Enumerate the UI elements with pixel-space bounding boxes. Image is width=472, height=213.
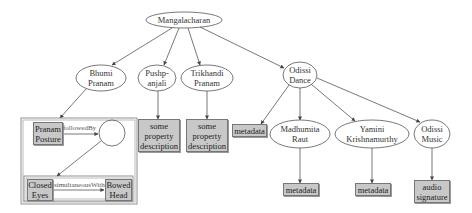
bowed-head-line2: Head (110, 190, 128, 200)
trikhandi-prop-line1: some (198, 121, 216, 131)
madhumita-metadata-box: metadata (283, 183, 319, 196)
odissi-dance-label: Odissi Dance (283, 62, 317, 88)
mangalacharan-text: Mangalacharan (158, 15, 210, 25)
pushp-property-box: some property description (138, 119, 180, 152)
odissi-dance-line2: Dance (289, 75, 311, 85)
madhumita-line1: Madhumita (280, 124, 319, 134)
trikhandi-pranam-label: Trikhandi Pranam (181, 65, 233, 91)
yamini-metadata-text: metadata (358, 185, 389, 195)
madhumita-metadata-text: metadata (286, 185, 317, 195)
trikhandi-property-box: some property description (186, 119, 228, 152)
audio-line1: audio (423, 182, 442, 192)
pushp-line1: Pushp- (145, 68, 169, 78)
closed-eyes-line1: Closed (28, 180, 52, 190)
yamini-line1: Yamini (360, 124, 385, 134)
yamini-metadata-box: metadata (355, 183, 391, 196)
bhumi-line2: Pranam (88, 78, 114, 88)
yamini-krishnamurthy-label: Yamini Krishnamurthy (335, 121, 409, 147)
audio-line2: signature (416, 192, 447, 202)
odissi-music-line2: Music (421, 134, 442, 144)
pushp-prop-line3: description (140, 141, 178, 151)
trikhandi-line1: Trikhandi (190, 68, 223, 78)
pranam-posture-line1: Pranam (35, 124, 61, 134)
mangalacharan-label: Mangalacharan (146, 13, 222, 27)
madhumita-line2: Raut (292, 134, 308, 144)
bowed-head-line1: Bowed (106, 180, 130, 190)
bhumi-line1: Bhumi (89, 68, 112, 78)
bhumi-pranam-label: Bhumi Pranam (76, 65, 126, 91)
closed-eyes-box: Closed Eyes (27, 179, 53, 201)
odissi-dance-metadata-text: metadata (234, 126, 265, 136)
followed-by-label: followedBy (63, 124, 96, 132)
audio-signature-box: audio signature (414, 180, 450, 203)
odissi-dance-line1: Odissi (289, 65, 311, 75)
bowed-head-box: Bowed Head (105, 179, 132, 201)
pushp-line2: anjali (148, 78, 167, 88)
closed-eyes-line2: Eyes (32, 190, 49, 200)
yamini-line2: Krishnamurthy (346, 134, 397, 144)
odissi-dance-metadata-box: metadata (232, 124, 267, 137)
pranam-posture-box: Pranam Posture (33, 122, 63, 145)
pushp-prop-line2: property (145, 131, 174, 141)
madhumita-raut-label: Madhumita Raut (270, 121, 330, 147)
pushpanjali-label: Pushp- anjali (138, 65, 176, 91)
odissi-music-label: Odissi Music (414, 121, 450, 147)
blank-node (99, 120, 125, 146)
trikhandi-prop-line2: property (193, 131, 222, 141)
pranam-posture-line2: Posture (35, 134, 61, 144)
odissi-music-line1: Odissi (421, 124, 443, 134)
trikhandi-line2: Pranam (194, 78, 220, 88)
pushp-prop-line1: some (150, 121, 168, 131)
simultaneous-with-label: simultaneousWith (54, 181, 105, 189)
trikhandi-prop-line3: description (188, 141, 226, 151)
